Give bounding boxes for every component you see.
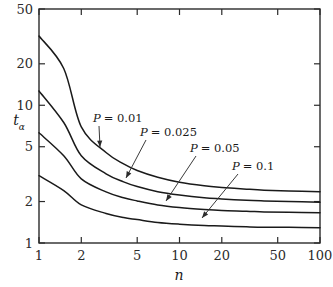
x-axis-title: n	[174, 267, 183, 283]
curve-annotation-0: P= 0.01	[92, 111, 143, 125]
curve-annotation-2: P= 0.05	[189, 141, 240, 155]
curve-annotation-3: P= 0.1	[231, 159, 274, 173]
x-tick-label-2: 2	[77, 248, 85, 263]
annotation-variable-3: P	[231, 159, 240, 173]
x-tick-label-20: 20	[214, 248, 231, 263]
y-axis-title-subscript: α	[19, 122, 25, 132]
x-tick-label-10: 10	[171, 248, 188, 263]
annotation-value-0: = 0.01	[104, 111, 143, 125]
y-tick-label-50: 50	[16, 2, 33, 17]
curve-annotation-1: P= 0.025	[139, 125, 197, 139]
x-tick-label-50: 50	[269, 248, 286, 263]
annotation-variable-2: P	[189, 141, 198, 155]
annotation-variable-0: P	[92, 111, 101, 125]
x-tick-label-1: 1	[35, 248, 43, 263]
y-tick-label-2: 2	[25, 194, 33, 209]
y-tick-label-10: 10	[16, 98, 33, 113]
annotation-value-3: = 0.1	[243, 159, 275, 173]
annotation-value-1: = 0.025	[151, 125, 197, 139]
chart-figure: 125102050100 125102050 P= 0.01P= 0.025P=…	[0, 0, 333, 287]
x-tick-label-5: 5	[133, 248, 141, 263]
y-tick-label-1: 1	[25, 236, 33, 251]
annotation-variable-1: P	[139, 125, 148, 139]
x-tick-label-100: 100	[308, 248, 333, 263]
log-log-chart: 125102050100 125102050 P= 0.01P= 0.025P=…	[0, 0, 333, 287]
y-tick-label-20: 20	[16, 56, 33, 71]
annotation-value-2: = 0.05	[201, 141, 240, 155]
y-tick-label-5: 5	[25, 139, 33, 154]
